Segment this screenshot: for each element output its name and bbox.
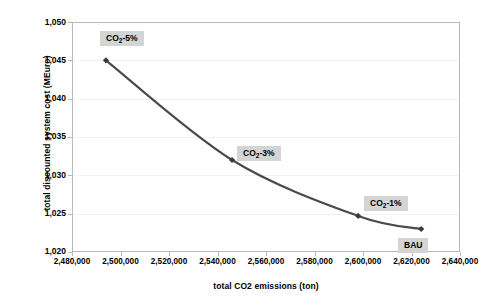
- gridline: [73, 214, 459, 215]
- x-tick-mark: [460, 252, 461, 256]
- x-tick-mark: [315, 252, 316, 256]
- gridline: [73, 137, 459, 138]
- y-tick-label: 1,030: [6, 170, 66, 180]
- data-label-co2-5pct: CO2-5%: [100, 31, 144, 46]
- y-tick-label: 1,040: [6, 93, 66, 103]
- y-tick-label: 1,025: [6, 208, 66, 218]
- line-chart: total discounted system cost (MEuro) 1,0…: [0, 0, 493, 306]
- gridline: [73, 175, 459, 176]
- x-tick-mark: [266, 252, 267, 256]
- data-label-co2-3pct: CO2-3%: [237, 146, 281, 161]
- x-tick-label: 2,640,000: [429, 257, 491, 266]
- gridline: [73, 99, 459, 100]
- x-axis-title: total CO2 emissions (ton): [72, 281, 460, 291]
- data-label-co2-1pct: CO2-1%: [364, 196, 408, 211]
- y-tick-label: 1,020: [6, 246, 66, 256]
- y-tick-label: 1,035: [6, 131, 66, 141]
- gridline: [73, 60, 459, 61]
- x-tick-mark: [363, 252, 364, 256]
- y-tick-label: 1,045: [6, 55, 66, 65]
- x-tick-mark: [169, 252, 170, 256]
- plot-area: [72, 22, 460, 252]
- x-tick-mark: [72, 252, 73, 256]
- data-label-bau: BAU: [398, 238, 428, 253]
- x-tick-mark: [218, 252, 219, 256]
- y-tick-label: 1,050: [6, 17, 66, 27]
- x-tick-mark: [121, 252, 122, 256]
